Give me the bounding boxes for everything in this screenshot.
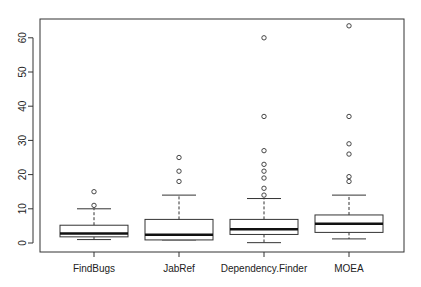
outlier-point: [262, 186, 266, 190]
outlier-point: [347, 179, 351, 183]
outlier-point: [347, 24, 351, 28]
outlier-point: [347, 114, 351, 118]
x-axis: FindBugsJabRefDependency.FinderMOEA: [73, 252, 364, 274]
outlier-point: [262, 36, 266, 40]
outlier-point: [262, 114, 266, 118]
outlier-point: [177, 155, 181, 159]
box-moea: [315, 24, 383, 239]
y-tick-label: 60: [17, 32, 28, 44]
y-tick-label: 20: [17, 169, 28, 181]
outlier-point: [347, 152, 351, 156]
y-tick-label: 0: [17, 240, 28, 246]
x-tick-label: Dependency.Finder: [221, 263, 308, 274]
outlier-point: [262, 176, 266, 180]
outlier-point: [347, 174, 351, 178]
y-tick-label: 40: [17, 100, 28, 112]
box-dependency-finder: [230, 36, 298, 243]
iqr-box: [230, 219, 298, 234]
y-axis: 0102030405060: [17, 32, 33, 246]
outlier-point: [262, 148, 266, 152]
box-jabref: [145, 155, 213, 240]
iqr-box: [145, 219, 213, 240]
boxes: [60, 24, 383, 243]
y-tick-label: 50: [17, 66, 28, 78]
outlier-point: [347, 142, 351, 146]
y-tick-label: 10: [17, 203, 28, 215]
outlier-point: [177, 179, 181, 183]
outlier-point: [92, 190, 96, 194]
boxplot-chart: 0102030405060 FindBugsJabRefDependency.F…: [0, 0, 421, 287]
outlier-point: [177, 169, 181, 173]
outlier-point: [92, 203, 96, 207]
outlier-point: [262, 169, 266, 173]
iqr-box: [60, 225, 128, 237]
box-findbugs: [60, 190, 128, 240]
x-tick-label: MOEA: [334, 263, 364, 274]
y-tick-label: 30: [17, 134, 28, 146]
x-tick-label: JabRef: [163, 263, 195, 274]
outlier-point: [262, 193, 266, 197]
outlier-point: [262, 162, 266, 166]
x-tick-label: FindBugs: [73, 263, 115, 274]
